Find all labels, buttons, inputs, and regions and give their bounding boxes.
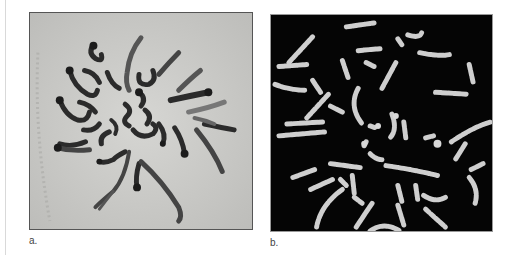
panel-a-label: a. — [29, 235, 37, 246]
panel-b-label: b. — [270, 237, 278, 248]
chromosome-spread-light-micrograph — [30, 13, 252, 229]
chromosome-spread-banded-karyotype — [271, 15, 492, 231]
figure-panel-b — [270, 14, 493, 232]
figure-panel-a — [29, 12, 253, 230]
page-margin-line — [5, 0, 6, 255]
